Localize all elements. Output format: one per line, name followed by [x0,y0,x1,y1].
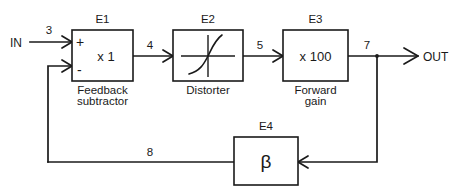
port-label-in: IN [10,36,22,50]
block-e2-name: E2 [201,13,215,25]
block-e3-caption-line2: gain [305,95,327,107]
block-diagram: E1 + - x 1 Feedback subtractor E2 Distor… [0,0,455,194]
diagram-canvas: E1 + - x 1 Feedback subtractor E2 Distor… [0,0,455,194]
signal-label-7: 7 [364,39,370,51]
junction-output-node [375,54,379,58]
block-e1-caption-line2: subtractor [77,95,128,107]
block-e2-caption-line1: Distorter [186,84,230,96]
signal-label-3: 3 [46,24,52,36]
signal-label-8: 8 [147,146,153,158]
wire-feedback-to-e1 [48,66,72,162]
block-e1-plus-sign: + [76,34,84,50]
block-e4-name: E4 [259,120,274,132]
block-e1-name: E1 [95,13,109,25]
signal-label-4: 4 [147,39,154,51]
block-e4-body: β [261,151,272,172]
block-e1-body: x 1 [97,49,114,64]
port-label-out: OUT [423,50,449,64]
block-e3-body: x 100 [300,49,332,64]
block-e3-name: E3 [308,13,322,25]
block-e1-minus-sign: - [77,62,82,78]
signal-label-5: 5 [257,39,263,51]
